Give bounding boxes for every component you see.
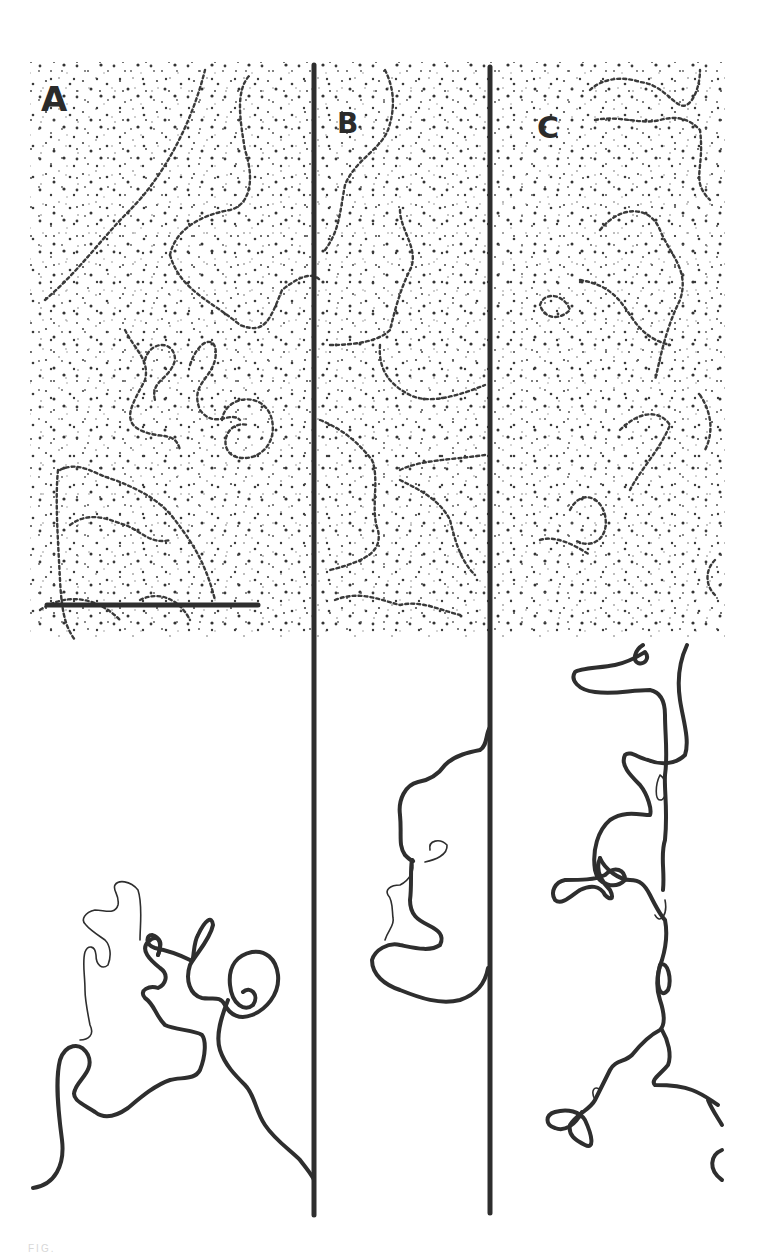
tracing-panel-a — [33, 882, 314, 1188]
panel-label-c: C — [537, 110, 559, 145]
tracing-panel-b — [372, 727, 490, 1002]
panel-label-a: A — [41, 79, 67, 119]
figure-caption-fragment: FIG. — [28, 1243, 55, 1254]
tracing-panel-c — [548, 645, 723, 1180]
panel-label-b: B — [337, 107, 358, 140]
figure-artwork — [0, 0, 759, 1257]
figure: A B C FIG. — [0, 0, 759, 1257]
micrograph-speckle — [30, 62, 725, 637]
